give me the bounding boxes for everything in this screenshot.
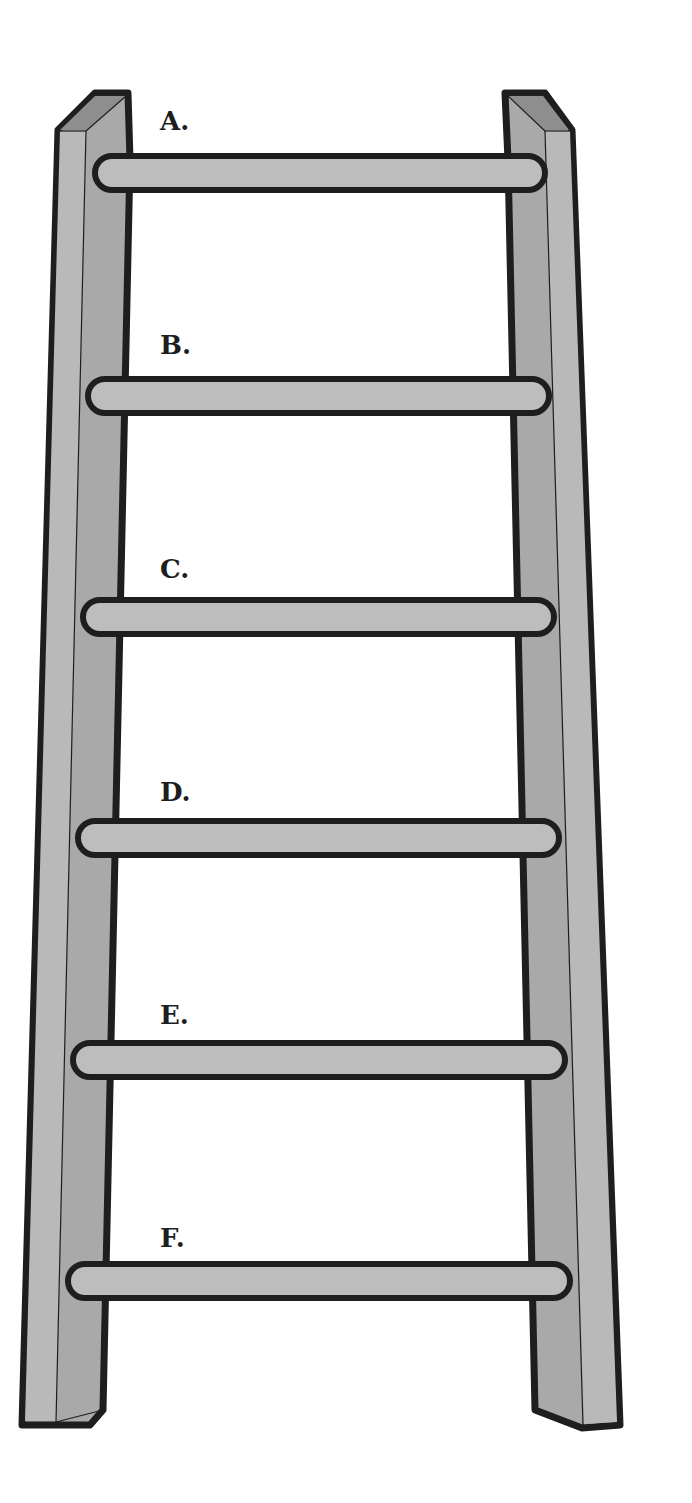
rung-a [95,156,545,190]
rung-label-c: C. [160,556,189,582]
right-rail [505,93,620,1428]
rung-d [78,821,559,855]
rung-label-b: B. [160,332,191,358]
rung-c [83,600,554,634]
ladder-diagram: A. B. C. D. E. F. [0,0,692,1503]
rung-label-e: E. [160,1002,189,1028]
rung-e [73,1043,565,1077]
rung-f [68,1264,570,1298]
rung-b [88,379,549,413]
rung-label-a: A. [160,108,189,134]
rung-label-d: D. [160,779,191,805]
ladder-graphic [0,0,692,1503]
left-rail [22,93,130,1425]
rungs [68,156,570,1298]
rung-label-f: F. [160,1225,185,1251]
